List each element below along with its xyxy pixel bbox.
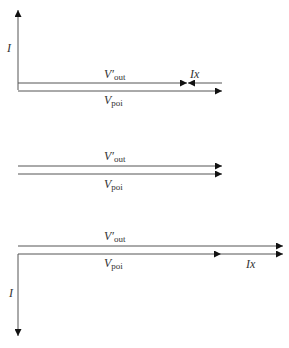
ix-label: Ix [245, 257, 256, 271]
vpoi-label: Vpoi [104, 93, 123, 108]
current-axis-label: I [6, 41, 12, 55]
panel-top: I V′out Vpoi Ix [6, 10, 222, 108]
ix-label: Ix [189, 67, 200, 81]
panel-bottom: V′out Vpoi Ix I [8, 229, 283, 336]
vpoi-label: Vpoi [104, 256, 123, 271]
phasor-diagram: I V′out Vpoi Ix V′out Vpoi V′out Vpoi Ix… [0, 0, 289, 348]
vout-label: V′out [104, 229, 126, 244]
vout-label: V′out [104, 67, 126, 82]
current-axis-label: I [8, 286, 14, 300]
vpoi-label: Vpoi [104, 177, 123, 192]
panel-middle: V′out Vpoi [18, 149, 222, 192]
vout-label: V′out [104, 149, 126, 164]
